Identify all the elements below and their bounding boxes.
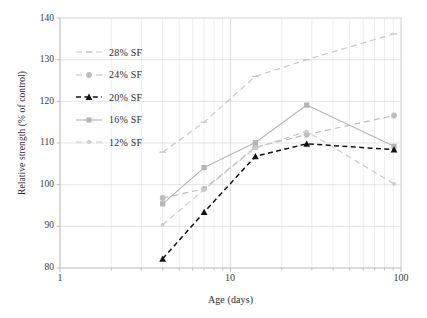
legend-marker-28-sf bbox=[74, 45, 104, 59]
legend-label-16-sf: 16% SF bbox=[109, 114, 142, 125]
legend-label-24-sf: 24% SF bbox=[109, 69, 142, 80]
legend-item-16-sf[interactable]: 16% SF bbox=[74, 109, 192, 132]
series-20-sf bbox=[159, 140, 397, 261]
legend-label-12-sf: 12% SF bbox=[109, 137, 142, 148]
legend-item-12-sf[interactable]: 12% SF bbox=[74, 131, 192, 154]
xtick-label-1: 1 bbox=[40, 272, 80, 283]
legend-item-20-sf[interactable]: 20% SF bbox=[74, 86, 192, 109]
legend: 28% SF 24% SF 20% SF 16% SF 12% SF bbox=[74, 41, 192, 154]
series-12-sf bbox=[161, 129, 396, 226]
plot-area bbox=[0, 0, 427, 318]
legend-marker-12-sf bbox=[74, 135, 104, 149]
xtick-label-100: 100 bbox=[381, 272, 421, 283]
legend-item-28-sf[interactable]: 28% SF bbox=[74, 41, 192, 64]
legend-marker-24-sf bbox=[74, 68, 104, 82]
legend-item-24-sf[interactable]: 24% SF bbox=[74, 64, 192, 87]
series-28-sf bbox=[159, 34, 397, 152]
legend-label-28-sf: 28% SF bbox=[109, 47, 142, 58]
chart-figure: 140 130 120 110 100 90 80 1 10 100 Relat… bbox=[0, 0, 427, 318]
xtick-label-10: 10 bbox=[210, 272, 250, 283]
legend-label-20-sf: 20% SF bbox=[109, 92, 142, 103]
y-axis-title: Relative strength (% of control) bbox=[17, 43, 27, 223]
legend-marker-16-sf bbox=[74, 113, 104, 127]
ytick-label-140: 140 bbox=[18, 13, 54, 23]
ytick-label-80: 80 bbox=[18, 262, 54, 272]
x-axis-title: Age (days) bbox=[60, 294, 401, 305]
legend-marker-20-sf bbox=[74, 90, 104, 104]
